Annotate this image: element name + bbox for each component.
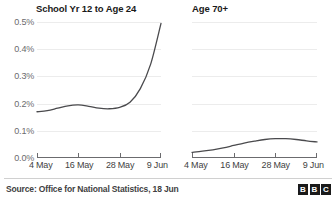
bbc-logo-letter: C [321, 184, 331, 195]
plot-area-left [37, 22, 161, 158]
x-tick-label: 4 May [184, 160, 208, 170]
panel-title-left: School Yr 12 to Age 24 [36, 3, 136, 14]
panel-title-right: Age 70+ [192, 3, 228, 14]
chart-panel-right: Age 70+ 4 May 16 May 28 May [180, 0, 336, 172]
x-tick-label: 9 Jun [303, 160, 324, 170]
source-text: Source: Office for National Statistics, … [6, 184, 179, 194]
y-tick-label: 0.4% [14, 44, 34, 54]
x-axis-tick [234, 153, 235, 158]
x-tick-label: 16 May [220, 160, 248, 170]
x-axis-tick [275, 153, 276, 158]
y-tick-label: 0.2% [14, 99, 34, 109]
y-axis-labels: 0.5% 0.4% 0.3% 0.2% 0.1% 0.0% [0, 22, 34, 158]
x-axis-tick [192, 153, 193, 158]
footer-divider [4, 178, 332, 179]
bbc-logo-letter: B [298, 184, 308, 195]
x-axis-tick [78, 153, 79, 158]
plot-area-right [192, 22, 317, 158]
chart-footer: Source: Office for National Statistics, … [0, 178, 336, 206]
bbc-logo: B B C [298, 184, 331, 195]
y-tick-label: 0.5% [14, 17, 34, 27]
chart-panels: School Yr 12 to Age 24 0.5% 0.4% 0.3% 0.… [0, 0, 336, 172]
x-axis-line [37, 157, 161, 158]
x-axis-tick [316, 153, 317, 158]
bbc-logo-letter: B [310, 184, 320, 195]
series-line-left [37, 22, 161, 158]
x-axis-labels-right: 4 May 16 May 28 May 9 Jun [192, 160, 317, 174]
x-axis-tick [120, 153, 121, 158]
series-line-right [192, 22, 317, 158]
y-tick-label: 0.1% [14, 126, 34, 136]
x-tick-label: 9 Jun [147, 160, 168, 170]
chart-figure: School Yr 12 to Age 24 0.5% 0.4% 0.3% 0.… [0, 0, 336, 206]
x-axis-tick [160, 153, 161, 158]
x-axis-line [192, 157, 317, 158]
x-axis-tick [37, 153, 38, 158]
x-tick-label: 16 May [65, 160, 93, 170]
y-tick-label: 0.3% [14, 71, 34, 81]
x-tick-label: 28 May [106, 160, 134, 170]
x-axis-labels-left: 4 May 16 May 28 May 9 Jun [37, 160, 161, 174]
x-tick-label: 4 May [29, 160, 53, 170]
chart-panel-left: School Yr 12 to Age 24 0.5% 0.4% 0.3% 0.… [0, 0, 180, 172]
x-tick-label: 28 May [262, 160, 290, 170]
